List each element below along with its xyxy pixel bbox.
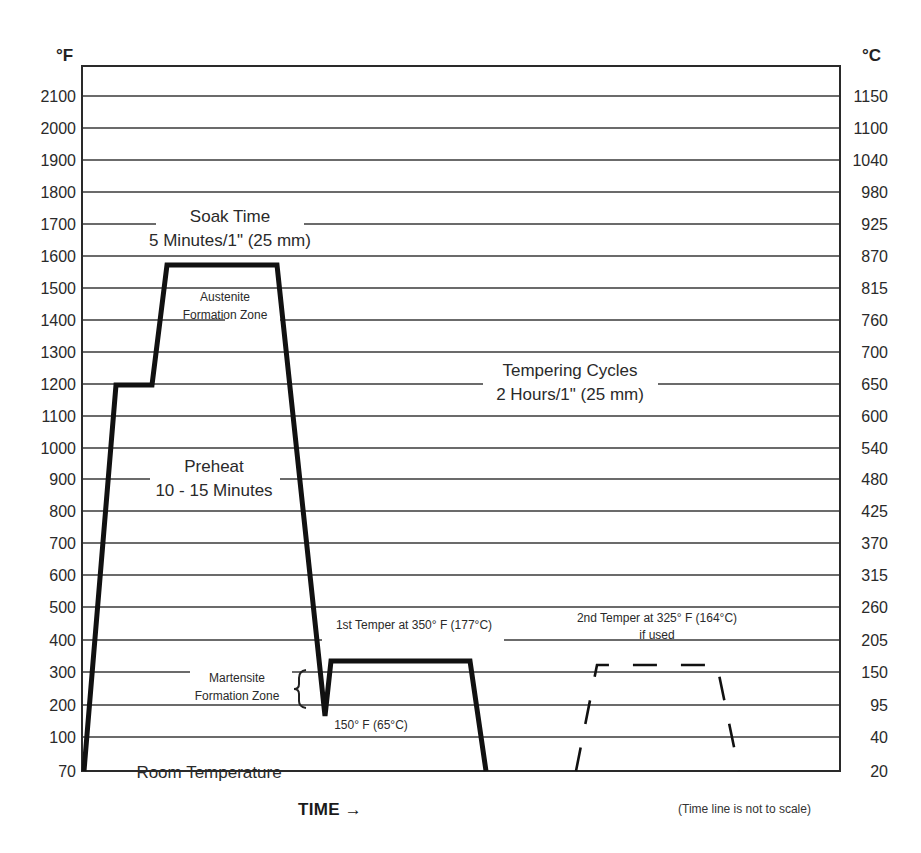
y-tick-fahrenheit: 900 — [49, 471, 76, 488]
y-tick-fahrenheit: 1000 — [40, 440, 76, 457]
first-temper-label: 1st Temper at 350° F (177°C) — [336, 618, 492, 632]
y-tick-fahrenheit: 1100 — [42, 408, 77, 425]
y-tick-celsius: 95 — [870, 697, 888, 714]
y-tick-celsius: 650 — [861, 376, 888, 393]
y-tick-celsius: 370 — [861, 535, 888, 552]
y-tick-celsius: 20 — [870, 763, 888, 780]
quench-low-label: 150° F (65°C) — [334, 718, 408, 732]
y-tick-celsius: 315 — [861, 567, 888, 584]
y-tick-fahrenheit: 700 — [49, 535, 76, 552]
y-tick-celsius: 1150 — [854, 88, 889, 105]
y-tick-fahrenheit: 300 — [49, 664, 76, 681]
heat-treatment-chart: 2100200019001800170016001500140013001200… — [0, 0, 921, 853]
y-tick-fahrenheit: 500 — [49, 599, 76, 616]
celsius-unit-label: °C — [862, 46, 881, 66]
y-tick-fahrenheit: 1900 — [40, 152, 76, 169]
y-tick-celsius: 40 — [870, 729, 888, 746]
y-tick-celsius: 600 — [861, 408, 888, 425]
y-tick-fahrenheit: 600 — [49, 567, 76, 584]
scale-note: (Time line is not to scale) — [678, 802, 811, 816]
tempering-detail: 2 Hours/1" (25 mm) — [496, 385, 644, 404]
y-tick-celsius: 760 — [861, 312, 888, 329]
preheat-detail: 10 - 15 Minutes — [155, 481, 272, 500]
preheat-title: Preheat — [184, 457, 244, 476]
y-tick-fahrenheit: 1700 — [40, 216, 76, 233]
soak-time-title: Soak Time — [190, 207, 270, 226]
y-tick-fahrenheit: 2100 — [40, 88, 76, 105]
y-tick-fahrenheit: 2000 — [40, 120, 76, 137]
second-temper-curve — [576, 665, 739, 771]
y-tick-fahrenheit: 1800 — [40, 184, 76, 201]
martensite-label-2: Formation Zone — [195, 689, 280, 703]
martensite-brace-icon — [294, 670, 306, 708]
y-tick-celsius: 425 — [861, 503, 888, 520]
y-tick-celsius: 540 — [861, 440, 888, 457]
tempering-title: Tempering Cycles — [502, 361, 637, 380]
austenite-label-2: Formation Zone — [183, 308, 268, 322]
y-tick-fahrenheit: 1400 — [40, 312, 76, 329]
y-tick-fahrenheit: 1200 — [40, 376, 76, 393]
y-tick-celsius: 150 — [861, 664, 888, 681]
y-tick-fahrenheit: 70 — [58, 763, 76, 780]
room-temperature-label: Room Temperature — [136, 763, 281, 782]
y-tick-fahrenheit: 1600 — [40, 248, 76, 265]
y-tick-fahrenheit: 1300 — [40, 344, 76, 361]
martensite-label-1: Martensite — [209, 671, 265, 685]
second-temper-label-2: if used — [639, 628, 674, 642]
y-tick-fahrenheit: 400 — [49, 632, 76, 649]
y-tick-fahrenheit: 100 — [49, 729, 76, 746]
time-axis-label: TIME → — [298, 800, 362, 820]
y-axis-celsius: 1150110010409809258708157607006506005404… — [852, 88, 888, 780]
y-tick-celsius: 815 — [861, 280, 888, 297]
fahrenheit-unit-label: °F — [56, 46, 73, 66]
y-tick-fahrenheit: 200 — [49, 697, 76, 714]
y-tick-fahrenheit: 1500 — [40, 280, 76, 297]
y-tick-celsius: 1100 — [854, 120, 889, 137]
y-tick-celsius: 480 — [861, 471, 888, 488]
y-tick-celsius: 700 — [861, 344, 888, 361]
second-temper-label-1: 2nd Temper at 325° F (164°C) — [577, 611, 737, 625]
y-axis-fahrenheit: 2100200019001800170016001500140013001200… — [40, 88, 76, 780]
austenite-label-1: Austenite — [200, 290, 250, 304]
y-tick-celsius: 925 — [861, 216, 888, 233]
soak-time-detail: 5 Minutes/1" (25 mm) — [149, 231, 311, 250]
y-tick-celsius: 980 — [861, 184, 888, 201]
y-tick-celsius: 260 — [861, 599, 888, 616]
y-tick-fahrenheit: 800 — [49, 503, 76, 520]
y-tick-celsius: 205 — [861, 632, 888, 649]
y-tick-celsius: 1040 — [852, 152, 888, 169]
y-tick-celsius: 870 — [861, 248, 888, 265]
